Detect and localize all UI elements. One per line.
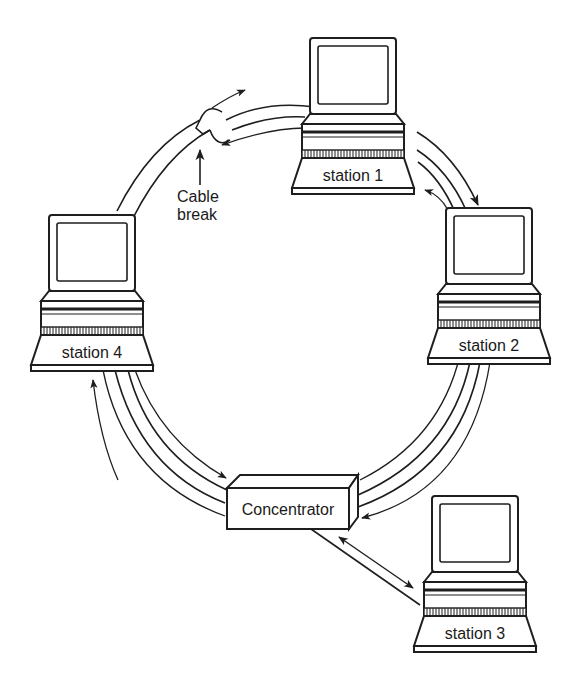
station-1-label: station 1 [323,167,384,184]
concentrator-label: Concentrator [242,501,335,518]
ring-cable [93,90,490,518]
arrow-counterclockwise-left [93,380,118,480]
network-diagram: Cable break station 1 station 2 station … [0,0,587,686]
bidirectional-arrow [339,537,413,588]
cable-break-fold [200,109,222,120]
station-4: station 4 [31,215,153,371]
cable-break-annotation: Cable break [177,150,219,223]
station-3-label: station 3 [445,625,506,642]
station-1: station 1 [292,38,414,194]
station-2-label: station 2 [459,337,520,354]
station-2: station 2 [428,208,550,364]
arrow-clockwise-left [135,370,226,478]
station-3: station 3 [414,496,536,652]
arrow-counterclockwise-bottom-right [360,355,460,480]
arrow-counterclockwise-top [222,128,305,145]
station-4-label: station 4 [62,344,123,361]
cable-break-label-line1: Cable [177,188,219,205]
concentrator-station3-link [311,529,420,605]
cable-break-label-line2: break [177,206,218,223]
arrow-clockwise-top [212,90,245,108]
concentrator: Concentrator [227,475,358,529]
arrow-clockwise-bottom-right [362,362,490,518]
